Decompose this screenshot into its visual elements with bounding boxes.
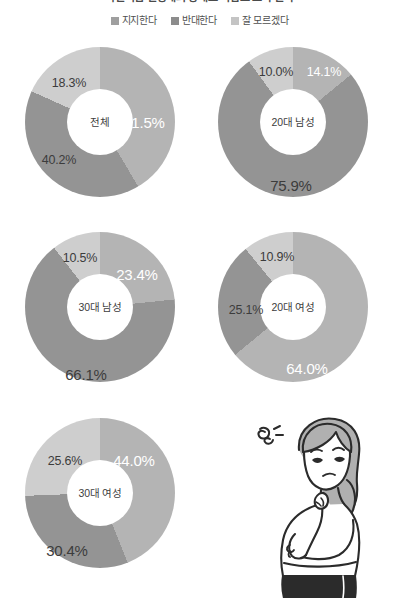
legend-swatch-support	[111, 17, 119, 25]
slice-label-female-30s-support: 44.0%	[113, 452, 155, 469]
slice-label-total-unsure: 18.3%	[52, 76, 86, 90]
slice-label-male-20s-support: 14.1%	[307, 65, 341, 79]
slice-label-female-30s-unsure: 25.6%	[48, 454, 82, 468]
donut-center-label-female-20s: 20대 여성	[272, 301, 315, 313]
slice-label-male-20s-oppose: 75.9%	[270, 177, 312, 194]
donut-hole-female-30s: 30대 여성	[67, 460, 133, 526]
slice-label-female-20s-oppose: 25.1%	[229, 303, 263, 317]
legend-item-oppose[interactable]: 반대한다	[171, 15, 217, 26]
donut-center-label-total: 전체	[90, 116, 109, 128]
donut-center-label-male-20s: 20대 남성	[272, 116, 315, 128]
donut-hole-male-30s: 30대 남성	[67, 274, 133, 340]
donut-center-label-male-30s: 30대 남성	[79, 301, 122, 313]
legend-label-oppose: 반대한다	[182, 15, 217, 26]
page-title: 국민의힘 전당대회 당대표 적합도 조사 결과	[0, 0, 399, 5]
slice-label-female-20s-unsure: 10.9%	[260, 250, 294, 264]
legend-label-support: 지지한다	[122, 15, 157, 26]
legend-label-unsure: 잘 모르겠다	[242, 15, 289, 26]
donut-chart-female-20s[interactable]: 20대 여성 64.0% 25.1% 10.9%	[218, 232, 368, 382]
donut-chart-male-30s[interactable]: 30대 남성 23.4% 66.1% 10.5%	[25, 232, 175, 382]
chart-legend: 지지한다 반대한다 잘 모르겠다	[0, 15, 399, 26]
legend-swatch-unsure	[231, 17, 239, 25]
slice-label-male-30s-support: 23.4%	[116, 266, 158, 283]
donut-center-label-female-30s: 30대 여성	[79, 487, 122, 499]
page-title-text: 국민의힘 전당대회 당대표 적합도 조사 결과	[0, 0, 399, 4]
legend-item-support[interactable]: 지지한다	[111, 15, 157, 26]
slice-label-total-support: 41.5%	[123, 114, 165, 131]
slice-label-female-20s-support: 64.0%	[286, 360, 328, 377]
donut-hole-male-20s: 20대 남성	[260, 89, 326, 155]
slice-label-male-30s-unsure: 10.5%	[63, 251, 97, 265]
slice-label-male-30s-oppose: 66.1%	[65, 366, 107, 383]
thinking-woman-illustration	[243, 408, 393, 598]
donut-chart-total[interactable]: 전체 41.5% 40.2% 18.3%	[25, 47, 175, 197]
donut-chart-male-20s[interactable]: 20대 남성 14.1% 75.9% 10.0%	[218, 47, 368, 197]
donut-hole-female-20s: 20대 여성	[260, 274, 326, 340]
slice-label-total-oppose: 40.2%	[42, 153, 76, 167]
confusion-squiggle-icon	[258, 426, 283, 444]
donut-chart-female-30s[interactable]: 30대 여성 44.0% 30.4% 25.6%	[25, 418, 175, 568]
slice-label-female-30s-oppose: 30.4%	[46, 542, 88, 559]
legend-item-unsure[interactable]: 잘 모르겠다	[231, 15, 289, 26]
slice-label-male-20s-unsure: 10.0%	[259, 65, 293, 79]
legend-swatch-oppose	[171, 17, 179, 25]
